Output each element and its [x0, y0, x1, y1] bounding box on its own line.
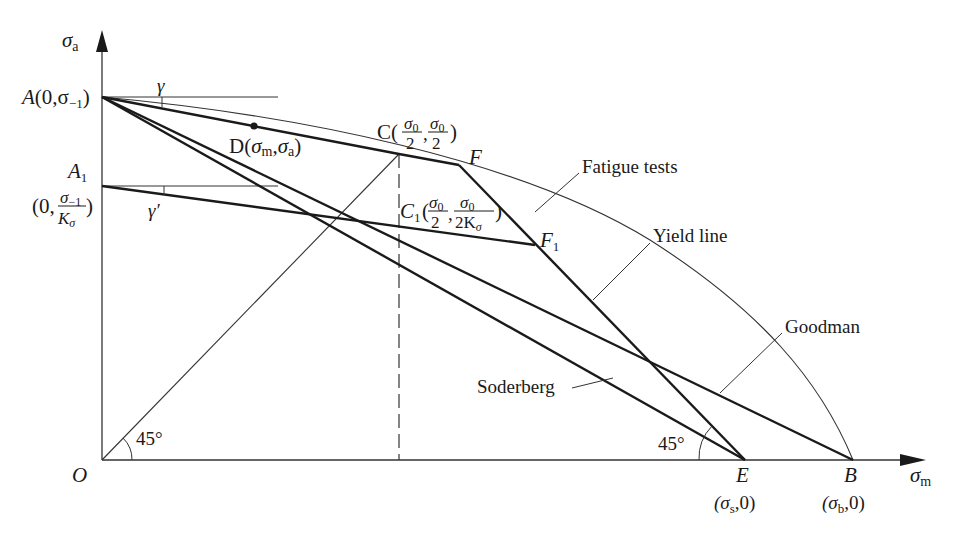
x-axis-label: σm	[910, 463, 931, 489]
svg-text:(0,: (0,	[32, 194, 55, 218]
svg-text:C(: C(	[377, 120, 398, 144]
point-f-label: F	[468, 145, 482, 169]
soderberg-line	[102, 97, 745, 460]
yield-line-leader	[593, 243, 650, 300]
svg-text:): )	[450, 120, 457, 144]
fatigue-tests-leader	[535, 173, 579, 212]
gamma-label: γ	[157, 75, 165, 96]
soderberg-label: Soderberg	[477, 376, 555, 397]
fatigue-tests-label: Fatigue tests	[582, 156, 678, 177]
point-f1-label: F1	[539, 228, 559, 254]
point-a-label: A(0,σ−1)	[20, 85, 90, 111]
point-a1-label: A1	[66, 159, 87, 185]
point-a1-coord: (0, σ−1 Kσ )	[32, 188, 93, 230]
origin-angle-arc	[123, 438, 132, 460]
gamma-prime-label: γ′	[148, 200, 160, 221]
point-e-label: E	[735, 463, 749, 487]
goodman-label: Goodman	[785, 316, 860, 337]
point-c-label: C( σ0 2 , σ0 2 )	[377, 114, 457, 153]
e-angle-arc	[699, 426, 712, 460]
goodman-leader	[720, 333, 782, 393]
origin-angle-label: 45°	[136, 428, 163, 449]
point-d-label: D(σm,σa)	[229, 134, 301, 159]
svg-text:Kσ: Kσ	[57, 209, 76, 230]
axes	[96, 30, 926, 466]
svg-text:,: ,	[423, 123, 428, 144]
svg-text:2: 2	[431, 213, 440, 232]
point-b-label: B	[844, 463, 857, 487]
y-axis-label: σa	[62, 28, 79, 54]
point-b-coord: (σb,0)	[822, 492, 865, 516]
svg-text:(: (	[422, 199, 429, 223]
origin-45-line	[102, 154, 399, 460]
svg-text:C1: C1	[400, 199, 421, 225]
svg-text:): )	[86, 194, 93, 218]
svg-text:): )	[495, 199, 502, 223]
yield-line-label: Yield line	[653, 225, 727, 246]
point-d-dot	[250, 122, 257, 129]
origin-label: O	[72, 463, 87, 487]
fatigue-diagram: σa σm O A(0,σ−1) A1 (0, σ−1 Kσ ) γ γ′ D(…	[0, 0, 962, 537]
svg-text:2: 2	[406, 134, 415, 153]
svg-text:2Kσ: 2Kσ	[455, 213, 483, 234]
point-e-coord: (σs,0)	[714, 492, 755, 516]
e-angle-label: 45°	[658, 433, 685, 454]
svg-text:2: 2	[432, 134, 441, 153]
svg-text:,: ,	[448, 203, 453, 224]
y-axis-arrow-icon	[96, 30, 108, 52]
